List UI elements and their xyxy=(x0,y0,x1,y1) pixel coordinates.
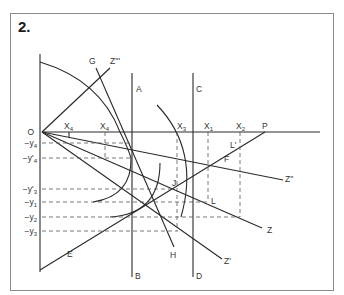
label-L: L xyxy=(211,196,216,206)
geometric-construction-diagram: O G Z''' A B C D P X4 X4 X3 X1 X2 L' F Z… xyxy=(0,0,344,295)
arc-y2 xyxy=(110,163,160,217)
label-neg-y4: −y4 xyxy=(24,138,37,149)
label-J: J xyxy=(172,178,176,188)
label-O: O xyxy=(27,127,34,137)
label-neg-y2: −y2 xyxy=(24,212,37,223)
label-B: B xyxy=(135,271,141,281)
label-X4prime: X4 xyxy=(64,121,74,132)
ray-O-Z2prime xyxy=(42,132,283,180)
label-X4: X4 xyxy=(100,121,110,132)
label-H: H xyxy=(170,250,176,260)
arc-y1 xyxy=(93,158,131,202)
label-Z2prime: Z'' xyxy=(285,174,294,184)
label-E: E xyxy=(67,249,73,259)
label-neg-y3: −y3 xyxy=(24,226,37,237)
label-C: C xyxy=(196,84,202,94)
label-Z: Z xyxy=(267,225,272,235)
large-arc xyxy=(40,62,131,158)
label-A: A xyxy=(136,84,142,94)
label-G: G xyxy=(89,56,96,66)
label-Lprime: L' xyxy=(230,140,237,150)
line-GH xyxy=(96,68,174,247)
label-F: F xyxy=(224,154,229,164)
label-D: D xyxy=(196,271,202,281)
label-X1: X1 xyxy=(204,121,214,132)
label-Zprime: Z' xyxy=(224,256,231,266)
label-neg-y3prime: −y'3 xyxy=(23,184,38,195)
label-X2: X2 xyxy=(236,121,246,132)
ray-O-Z xyxy=(42,132,262,228)
label-X3: X3 xyxy=(177,121,187,132)
label-neg-y4prime: −y'4 xyxy=(23,153,38,164)
label-Z3prime: Z''' xyxy=(110,56,120,66)
label-P: P xyxy=(262,121,268,131)
label-neg-y1: −y1 xyxy=(24,197,37,208)
line-PE xyxy=(40,132,265,270)
